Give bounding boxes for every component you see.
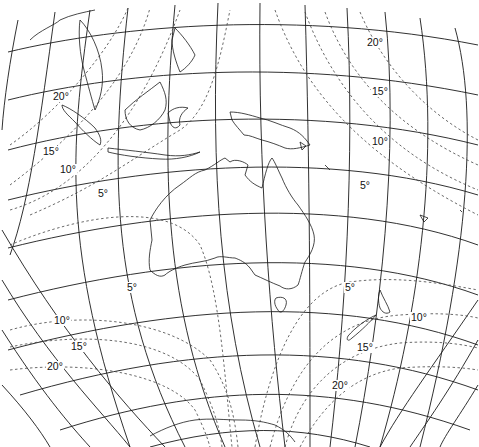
tasmania-coast: [275, 297, 287, 312]
iso-label-ur-5: 5°: [359, 180, 371, 191]
map-figure: 20° 15° 10° 5° 20° 15° 10° 5° 5° 10° 15°…: [0, 0, 479, 447]
iso-label-ll-15: 15°: [70, 341, 88, 352]
nz-north-coast: [379, 290, 391, 313]
coastlines: [30, 10, 462, 442]
iso-label-lr-5: 5°: [344, 282, 356, 293]
iso-label-ll-20: 20°: [46, 361, 64, 372]
iso-label-ur-10: 10°: [371, 136, 389, 147]
iso-label-ul-15: 15°: [42, 146, 60, 157]
iso-label-ul-20: 20°: [52, 91, 70, 102]
iso-label-ur-20: 20°: [366, 37, 384, 48]
sulawesi-coast: [168, 107, 188, 128]
sumatra-coast: [62, 105, 101, 145]
iso-label-ul-5: 5°: [97, 188, 109, 199]
australia-coast: [149, 158, 314, 289]
iso-label-ur-15: 15°: [371, 86, 389, 97]
isolines: [10, 8, 478, 447]
map-canvas: [0, 0, 479, 447]
java-coast: [108, 148, 200, 159]
indochina-coast: [79, 20, 102, 110]
iso-label-lr-10: 10°: [410, 312, 428, 323]
iso-label-lr-15: 15°: [356, 342, 374, 353]
borneo-coast: [125, 82, 166, 130]
iso-label-ul-10: 10°: [59, 164, 77, 175]
parallels: [8, 25, 478, 447]
iso-label-ll-5: 5°: [126, 282, 138, 293]
iso-label-ll-10: 10°: [53, 315, 71, 326]
asia-coast: [30, 10, 95, 40]
philippines-coast: [172, 28, 195, 72]
iso-label-lr-20: 20°: [331, 380, 349, 391]
new-guinea-coast: [230, 112, 310, 149]
